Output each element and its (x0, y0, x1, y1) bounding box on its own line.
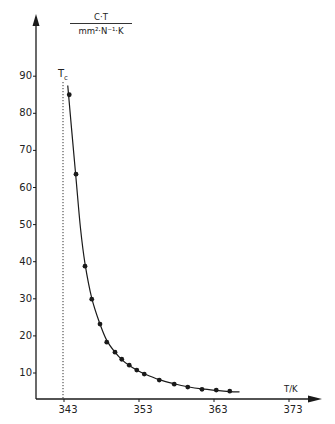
tc-sub: c (64, 74, 68, 82)
y-unit-denominator: mm²·N⁻¹·K (70, 26, 132, 36)
data-point (200, 387, 205, 392)
data-point (185, 385, 190, 390)
x-tick-label: 363 (203, 405, 233, 415)
y-tick-label: 70 (10, 145, 32, 155)
x-tick-label: 353 (128, 405, 158, 415)
y-tick-label: 10 (10, 368, 32, 378)
data-point (67, 92, 72, 97)
data-point (119, 357, 124, 362)
x-axis-arrow-icon (308, 396, 322, 403)
y-tick-label: 30 (10, 294, 32, 304)
x-tick-label: 373 (278, 405, 308, 415)
data-point (113, 350, 118, 355)
y-tick-label: 40 (10, 257, 32, 267)
chart-canvas (0, 0, 335, 424)
data-point (227, 389, 232, 394)
data-points (67, 92, 232, 393)
data-point (127, 363, 132, 368)
y-tick-label: 60 (10, 183, 32, 193)
y-tick-label: 80 (10, 108, 32, 118)
x-tick-label: 343 (53, 405, 83, 415)
tc-annotation: Tc (58, 68, 68, 82)
y-unit-numerator: C·T (72, 12, 130, 22)
data-point (157, 378, 162, 383)
y-unit-fraction-bar (70, 23, 132, 24)
data-point (83, 264, 88, 269)
data-point (98, 322, 103, 327)
data-point (142, 372, 147, 377)
data-point (104, 340, 109, 345)
fit-curve (68, 85, 240, 391)
axes (33, 14, 323, 403)
data-point (89, 297, 94, 302)
y-tick-label: 50 (10, 220, 32, 230)
x-axis-label: T/K (284, 384, 298, 394)
y-tick-label: 20 (10, 331, 32, 341)
y-axis-arrow-icon (33, 14, 40, 26)
data-point (134, 368, 139, 373)
y-tick-label: 90 (10, 71, 32, 81)
data-point (214, 388, 219, 393)
data-point (74, 172, 79, 177)
data-point (172, 382, 177, 387)
